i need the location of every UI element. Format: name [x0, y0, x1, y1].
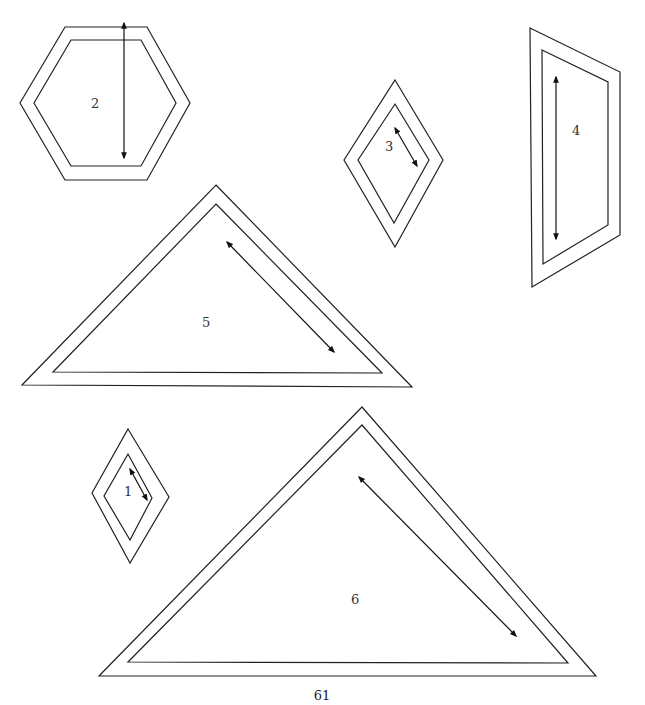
template-label: 4	[572, 123, 580, 138]
template-1-diamond: 1	[92, 429, 169, 563]
template-3-diamond: 3	[344, 80, 443, 247]
template-label: 2	[91, 96, 99, 111]
page-number: 61	[314, 688, 331, 703]
template-label: 5	[202, 315, 210, 330]
template-label: 3	[385, 139, 393, 154]
pattern-page: 2 3 4 5 1 6 61	[0, 0, 645, 705]
template-4-trapezoid: 4	[530, 28, 620, 287]
templates-drawing: 2 3 4 5 1 6 61	[0, 0, 645, 705]
template-2-hexagon: 2	[20, 23, 190, 180]
template-label: 1	[124, 484, 132, 499]
grain-arrow-icon	[227, 242, 334, 352]
template-label: 6	[351, 592, 359, 607]
template-6-triangle: 6	[99, 407, 596, 676]
template-5-triangle: 5	[22, 185, 412, 387]
